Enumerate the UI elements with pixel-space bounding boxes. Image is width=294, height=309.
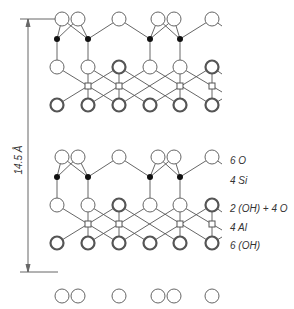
clay-mineral-structure-diagram: 14.5 Å [0,0,294,309]
label-6-hydroxyl: 6 (OH) [230,240,260,251]
silicon-atoms [54,36,183,42]
oxygen-atoms-top [55,150,219,164]
hydroxyl-atoms-bottom [51,99,219,112]
dimension-label: 14.5 Å [12,145,24,174]
dimension-annotation [20,19,58,272]
label-6-oxygen: 6 O [230,155,246,166]
label-hydroxyl-plus-oxygen: 2 (OH) + 4 O [229,203,288,214]
bonds [57,157,222,243]
row-labels: 6 O 4 Si 2 (OH) + 4 O 4 Al 6 (OH) [229,155,288,251]
bonds [57,19,222,105]
layer-2 [50,150,222,250]
label-4-aluminium: 4 Al [230,222,248,233]
next-layer-oxygen-row [55,289,219,303]
layer-1 [50,12,222,112]
hydroxyl-atoms-mid [113,61,219,74]
silicon-atoms [54,174,183,180]
hydroxyl-atoms-bottom [51,237,219,250]
label-4-silicon: 4 Si [230,175,248,186]
hydroxyl-atoms-mid [113,199,219,212]
oxygen-atoms-top [55,12,219,26]
